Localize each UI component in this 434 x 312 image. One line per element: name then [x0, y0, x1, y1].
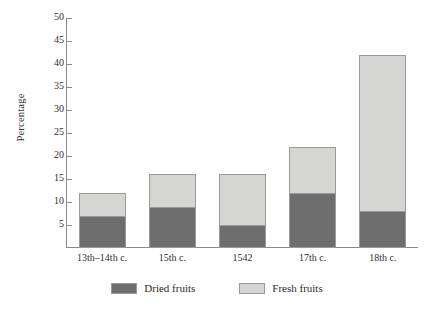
y-tick-45: 45 — [30, 41, 72, 42]
bar-segment-dried-fruits[interactable] — [150, 207, 195, 247]
y-tick-15: 15 — [30, 179, 72, 180]
dried-fruits-swatch-icon — [111, 283, 137, 294]
y-tick-label: 10 — [54, 195, 64, 206]
bar-segment-fresh-fruits[interactable] — [290, 148, 335, 193]
fresh-fruits-swatch-icon — [239, 283, 265, 294]
y-tick-35: 35 — [30, 87, 72, 88]
bar-segment-fresh-fruits[interactable] — [150, 175, 195, 206]
y-tick-20: 20 — [30, 156, 72, 157]
y-tick-label: 30 — [54, 103, 64, 114]
y-tick-label: 15 — [54, 172, 64, 183]
bar-stack[interactable] — [79, 193, 126, 248]
x-axis-category-label: 1542 — [233, 252, 253, 263]
legend-item-dried-fruits: Dried fruits — [111, 282, 195, 294]
y-tick-10: 10 — [30, 202, 72, 203]
bar-group[interactable]: 1542 — [219, 18, 266, 248]
bar-segment-fresh-fruits[interactable] — [360, 56, 405, 211]
y-axis-title: Percentage — [15, 70, 26, 166]
y-tick-label: 40 — [54, 57, 64, 68]
bar-series-container: 13th–14th c.15th c.154217th c.18th c. — [67, 18, 418, 248]
y-tick-30: 30 — [30, 110, 72, 111]
y-tick-label: 20 — [54, 149, 64, 160]
bar-segment-fresh-fruits[interactable] — [80, 194, 125, 216]
y-tick-25: 25 — [30, 133, 72, 134]
bar-segment-dried-fruits[interactable] — [290, 193, 335, 247]
caption-sliver — [26, 305, 326, 312]
bar-stack[interactable] — [219, 174, 266, 248]
legend-label-fresh-fruits: Fresh fruits — [272, 282, 322, 294]
legend-label-dried-fruits: Dried fruits — [144, 282, 195, 294]
y-tick-label: 35 — [54, 80, 64, 91]
x-axis-category-label: 13th–14th c. — [77, 252, 127, 263]
bar-group[interactable]: 18th c. — [359, 18, 406, 248]
y-tick-label: 45 — [54, 34, 64, 45]
figure-stacked-bar-chart: Percentage 5101520253035404550 13th–14th… — [0, 0, 434, 312]
bar-stack[interactable] — [289, 147, 336, 248]
plot-area: 5101520253035404550 13th–14th c.15th c.1… — [66, 18, 418, 248]
bar-segment-dried-fruits[interactable] — [80, 216, 125, 247]
y-tick-label: 25 — [54, 126, 64, 137]
chart-legend: Dried fruits Fresh fruits — [0, 282, 434, 294]
y-tick-5: 5 — [30, 225, 72, 226]
y-tick-label: 50 — [54, 11, 64, 22]
legend-item-fresh-fruits: Fresh fruits — [239, 282, 322, 294]
bar-segment-dried-fruits[interactable] — [360, 211, 405, 247]
bar-group[interactable]: 17th c. — [289, 18, 336, 248]
x-axis-category-label: 15th c. — [159, 252, 186, 263]
y-tick-40: 40 — [30, 64, 72, 65]
bar-segment-fresh-fruits[interactable] — [220, 175, 265, 224]
x-axis-category-label: 18th c. — [369, 252, 396, 263]
bar-stack[interactable] — [359, 55, 406, 248]
x-axis-category-label: 17th c. — [299, 252, 326, 263]
bar-group[interactable]: 15th c. — [149, 18, 196, 248]
y-tick-label: 5 — [59, 218, 64, 229]
y-tick-50: 50 — [30, 18, 72, 19]
bar-stack[interactable] — [149, 174, 196, 248]
bar-group[interactable]: 13th–14th c. — [79, 18, 126, 248]
bar-segment-dried-fruits[interactable] — [220, 225, 265, 247]
